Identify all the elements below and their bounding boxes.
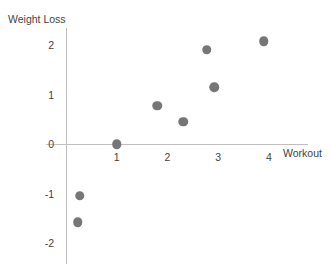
plot-area (0, 0, 334, 270)
data-point (112, 139, 122, 149)
data-point (153, 101, 163, 111)
data-point (202, 45, 212, 55)
data-point (73, 217, 83, 227)
data-point (209, 82, 219, 92)
data-point (75, 191, 85, 201)
scatter-chart: Weight Loss Workout 210-1-21234 (0, 0, 334, 270)
data-point (178, 117, 188, 127)
data-point (259, 36, 269, 46)
